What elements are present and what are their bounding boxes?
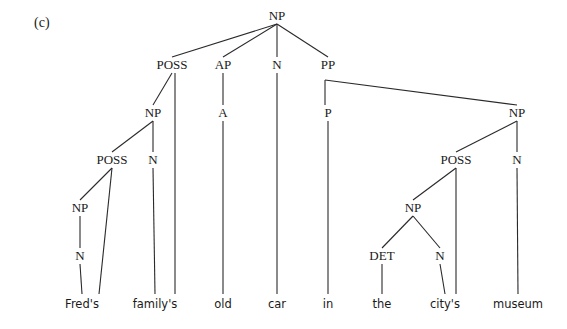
edge-np-thecity-to-n-city (413, 216, 440, 248)
leaf-in: in (323, 297, 333, 311)
edge-pp-to-np-museum (325, 80, 517, 105)
node-n-museum: N (512, 152, 522, 167)
edge-poss-fred-to-w-freds (99, 168, 112, 294)
edge-n-fred-to-w-freds (80, 264, 82, 294)
syntax-tree: (c) NPPOSSAPNPPNPAPNPPOSSNPOSSNNPNPNDETN… (0, 0, 567, 329)
edge-n-family-to-w-familys (153, 168, 155, 294)
node-ap: AP (215, 57, 232, 72)
edge-poss1-to-np-family (153, 73, 172, 105)
node-poss-fred: POSS (96, 152, 127, 167)
figure-caption: (c) (34, 15, 50, 31)
leaf-familys: family's (133, 297, 178, 311)
edge-np-family-to-poss-fred (112, 121, 153, 152)
node-n-family: N (148, 152, 158, 167)
node-np-museum: NP (509, 105, 526, 120)
node-poss1: POSS (156, 57, 187, 72)
node-np-thecity: NP (405, 200, 422, 215)
tree-leaves: Fred'sfamily'soldcarinthecity'smuseum (65, 297, 543, 311)
edge-n-city-to-w-citys (440, 264, 445, 294)
edge-poss-city-to-np-thecity (413, 168, 456, 200)
node-poss-city: POSS (440, 152, 471, 167)
edge-poss-fred-to-np-fred (80, 168, 112, 200)
node-n-fred: N (75, 248, 85, 263)
leaf-old: old (214, 297, 232, 311)
edge-n-museum-to-w-museum (517, 168, 518, 294)
edge-np-thecity-to-det-the (382, 216, 413, 248)
leaf-museum: museum (493, 297, 543, 311)
edge-np-root-to-poss1 (172, 24, 277, 57)
edge-np-root-to-ap (223, 24, 277, 57)
edge-np-museum-to-poss-city (456, 121, 517, 152)
node-np-family: NP (145, 105, 162, 120)
node-n-city: N (435, 248, 445, 263)
node-n-car: N (272, 57, 282, 72)
edge-np-root-to-pp (277, 24, 328, 57)
leaf-freds: Fred's (65, 297, 99, 311)
node-np-fred: NP (72, 200, 89, 215)
tree-nodes: NPPOSSAPNPPNPAPNPPOSSNPOSSNNPNPNDETN (72, 8, 526, 263)
leaf-the: the (373, 297, 392, 311)
node-a-old: A (218, 105, 228, 120)
node-pp: PP (321, 57, 335, 72)
leaf-citys: city's (430, 297, 460, 311)
node-p-in: P (324, 105, 331, 120)
leaf-car: car (268, 297, 286, 311)
node-np-root: NP (269, 8, 286, 23)
node-det-the: DET (369, 248, 394, 263)
